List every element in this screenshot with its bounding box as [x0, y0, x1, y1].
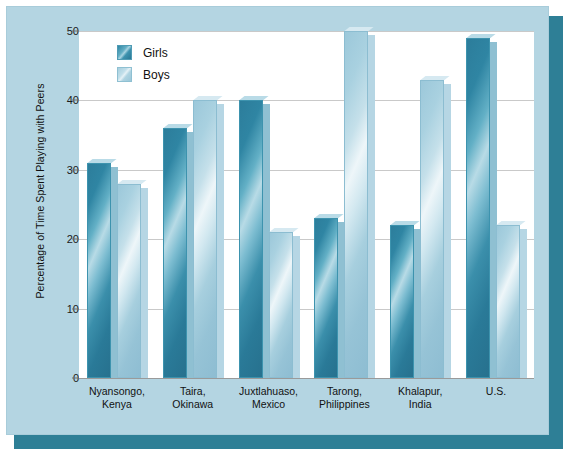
bar-side-face [368, 35, 375, 378]
chart-panel: Percentage of Time Spent Playing with Pe… [6, 6, 549, 435]
x-label-line-1: Juxtlahuaso, [239, 385, 298, 397]
x-axis-label-3: Tarong,Philippines [307, 385, 383, 411]
x-axis-label-1: Taira,Okinawa [155, 385, 231, 411]
chart-legend: GirlsBoys [117, 45, 170, 89]
bar-boys-0 [117, 184, 141, 378]
y-tick-mark-20 [72, 239, 79, 240]
bar-front-face [163, 128, 187, 378]
bar-boys-1 [193, 100, 217, 378]
gridline-0 [79, 378, 534, 379]
bar-boys-5 [496, 225, 520, 378]
x-label-line-2: Kenya [79, 398, 155, 411]
y-tick-mark-40 [72, 100, 79, 101]
y-tick-mark-0 [72, 378, 79, 379]
legend-item-boys: Boys [117, 67, 170, 82]
bar-front-face [496, 225, 520, 378]
bar-front-face [466, 38, 490, 378]
bar-front-face [314, 218, 338, 378]
bar-front-face [117, 184, 141, 378]
bar-girls-2 [239, 100, 263, 378]
legend-swatch-boys [117, 67, 132, 82]
x-label-line-1: U.S. [486, 385, 506, 397]
bar-girls-3 [314, 218, 338, 378]
bar-side-face [293, 236, 300, 378]
y-axis-ticks: 01020304050 [31, 31, 79, 378]
bar-front-face [87, 163, 111, 378]
x-axis-labels: Nyansongo,KenyaTaira,OkinawaJuxtlahuaso,… [79, 385, 534, 430]
bar-front-face [390, 225, 414, 378]
x-axis-label-5: U.S. [458, 385, 534, 398]
x-label-line-2: India [382, 398, 458, 411]
bar-side-face [217, 104, 224, 378]
y-tick-mark-10 [72, 308, 79, 309]
bar-girls-5 [466, 38, 490, 378]
bar-boys-2 [269, 232, 293, 378]
x-axis-label-2: Juxtlahuaso,Mexico [231, 385, 307, 411]
chart-figure: Percentage of Time Spent Playing with Pe… [0, 0, 565, 451]
y-tick-mark-30 [72, 169, 79, 170]
legend-label-girls: Girls [143, 47, 168, 59]
bar-side-face [444, 84, 451, 378]
x-label-line-1: Taira, [180, 385, 206, 397]
x-label-line-1: Nyansongo, [89, 385, 145, 397]
bar-front-face [193, 100, 217, 378]
y-tick-mark-50 [72, 31, 79, 32]
bar-girls-0 [87, 163, 111, 378]
x-label-line-2: Okinawa [155, 398, 231, 411]
legend-label-boys: Boys [143, 69, 170, 81]
x-label-line-1: Khalapur, [398, 385, 442, 397]
bar-side-face [520, 229, 527, 378]
bar-front-face [239, 100, 263, 378]
legend-swatch-girls [117, 45, 132, 60]
legend-item-girls: Girls [117, 45, 170, 60]
bar-front-face [269, 232, 293, 378]
bar-front-face [344, 31, 368, 378]
x-label-line-1: Tarong, [327, 385, 362, 397]
bar-girls-1 [163, 128, 187, 378]
bar-girls-4 [390, 225, 414, 378]
x-label-line-2: Mexico [231, 398, 307, 411]
bar-side-face [141, 188, 148, 378]
x-axis-label-4: Khalapur,India [382, 385, 458, 411]
bar-front-face [420, 80, 444, 378]
bar-boys-4 [420, 80, 444, 378]
x-label-line-2: Philippines [307, 398, 383, 411]
x-axis-label-0: Nyansongo,Kenya [79, 385, 155, 411]
bar-boys-3 [344, 31, 368, 378]
